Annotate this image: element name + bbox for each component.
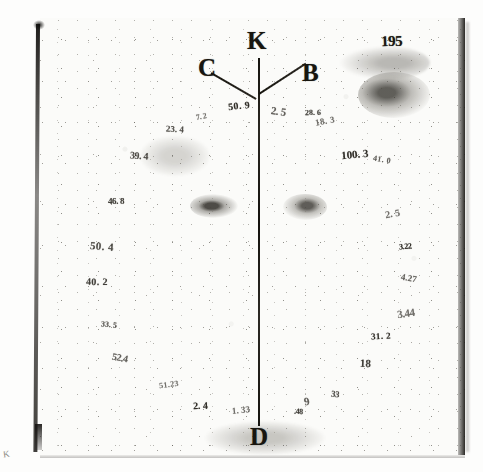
scan-edge-bottom <box>40 455 465 458</box>
annotation-number: 39. 4 <box>130 149 149 161</box>
annotation-number: 40. 2 <box>86 276 108 287</box>
vertical-axis-line <box>258 58 260 426</box>
annotation-number: 50. 4 <box>90 239 115 253</box>
annotation-number: 46. 8 <box>108 196 124 206</box>
annotation-number: 23. 4 <box>166 124 184 135</box>
annotation-number: 2. 5 <box>384 207 401 220</box>
label-d: D <box>250 423 268 451</box>
annotation-number: 3.44 <box>396 306 415 320</box>
annotation-number: 2. 4 <box>193 400 208 412</box>
annotation-number: 100. 3 <box>341 147 369 161</box>
annotation-number: 33. 5 <box>101 319 118 330</box>
annotation-number: 1. 33 <box>232 404 251 416</box>
ink-smudge <box>340 46 430 80</box>
paper-surface <box>40 18 465 455</box>
annotation-number: 2. 5 <box>270 104 286 118</box>
binding-gutter-line <box>33 24 40 452</box>
label-k: K <box>247 27 266 55</box>
annotation-number: 28. 6 <box>305 108 321 117</box>
annotation-number: 33 <box>330 389 339 400</box>
annotation-number: 50. 9 <box>227 99 250 112</box>
scanned-page: K C B D 195 7. 223. 450. 92. 528. 618. 3… <box>0 0 483 472</box>
ink-smudge <box>190 194 238 218</box>
ink-smudge <box>283 194 327 220</box>
gutter-ink-blob <box>33 20 45 30</box>
ink-smudge <box>358 72 430 118</box>
annotation-number: 3.22 <box>399 242 412 252</box>
ink-smudge <box>140 136 210 176</box>
label-b: B <box>302 59 319 87</box>
scan-edge-dark-band <box>458 18 465 455</box>
scan-speckle-texture <box>40 18 465 455</box>
corner-mark-k: K <box>2 449 10 460</box>
annotation-number: .48 <box>294 407 303 416</box>
annotation-number: 31. 2 <box>371 330 391 341</box>
annotation-number: 18 <box>360 357 371 369</box>
label-c: C <box>198 54 216 82</box>
gutter-ink-blob <box>35 424 42 450</box>
scan-speckle-texture <box>40 18 465 455</box>
folio-number: 195 <box>381 33 403 51</box>
